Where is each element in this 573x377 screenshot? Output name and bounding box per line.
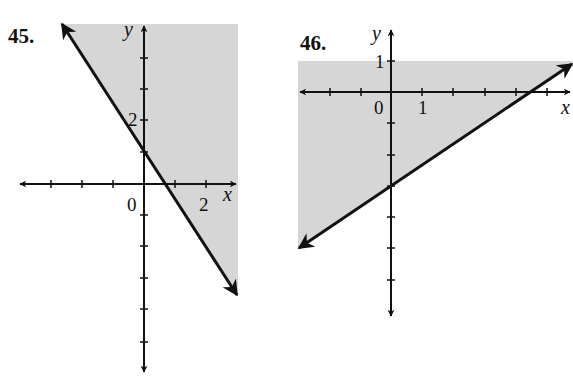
graph-45-x-label: x — [222, 183, 232, 205]
graph-45-x-tick-label: 2 — [199, 194, 209, 215]
figure-canvas: 45. y x 0 2 2 — [0, 0, 573, 377]
graph-45-origin-label: 0 — [127, 194, 137, 215]
graph-46-x-tick-label: 1 — [418, 97, 428, 118]
graph-46-x-label: x — [560, 96, 570, 118]
graph-45-number: 45. — [8, 24, 34, 48]
graph-46: 46. y x 0 1 1 — [298, 22, 573, 316]
graph-45: 45. y x 0 2 2 — [8, 18, 238, 372]
graph-46-y-tick-label: 1 — [375, 51, 385, 72]
graph-46-y-label: y — [370, 22, 381, 45]
graph-46-origin-label: 0 — [374, 97, 384, 118]
graph-45-y-label: y — [122, 18, 133, 41]
graph-46-number: 46. — [300, 31, 326, 55]
